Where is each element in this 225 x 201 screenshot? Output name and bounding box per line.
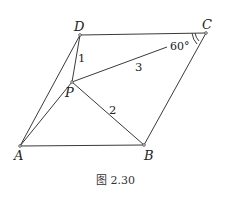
vertex-d (79, 34, 82, 37)
vertex-b (143, 144, 146, 147)
segment-pc-part1 (72, 47, 167, 82)
label-p: P (64, 85, 74, 100)
label-a: A (13, 148, 23, 163)
length-pc: 3 (135, 60, 142, 74)
segment-pb (72, 82, 144, 145)
label-d: D (73, 19, 85, 34)
segment-ab (20, 145, 144, 146)
angle-arc-c-inner (195, 33, 199, 41)
angle-arc-c (192, 33, 197, 44)
vertex-a (19, 145, 22, 148)
vertex-p (71, 81, 74, 84)
segment-cd (80, 33, 206, 35)
length-pb: 2 (109, 103, 116, 117)
geometry-figure: D C A B P 1 3 2 60° 图 2.30 (0, 0, 225, 201)
label-c: C (202, 17, 212, 32)
angle-label-c: 60° (170, 40, 190, 53)
length-pd: 1 (78, 51, 85, 65)
label-b: B (143, 148, 154, 163)
vertex-c (205, 32, 208, 35)
figure-caption: 图 2.30 (96, 174, 135, 187)
